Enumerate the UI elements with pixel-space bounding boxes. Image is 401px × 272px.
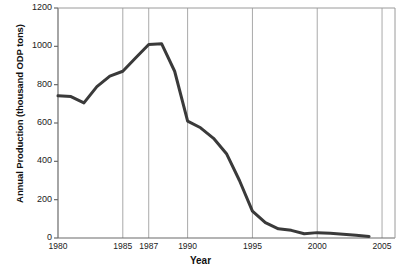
chart-container: Annual Production (thousand ODP tons) Ye… (0, 0, 401, 272)
x-tick-label-2000: 2000 (297, 241, 337, 251)
x-tick-label-1995: 1995 (232, 241, 272, 251)
x-tick-label-2005: 2005 (362, 241, 401, 251)
y-tick-label-800: 800 (18, 79, 52, 89)
production-line-series (58, 44, 369, 237)
y-tick-label-600: 600 (18, 117, 52, 127)
axis-lines-group (58, 8, 395, 238)
y-tick-label-1200: 1200 (18, 2, 52, 12)
x-tick-label-1987: 1987 (129, 241, 169, 251)
y-tick-label-1000: 1000 (18, 40, 52, 50)
x-tick-label-1990: 1990 (168, 241, 208, 251)
y-tick-label-200: 200 (18, 194, 52, 204)
plot-area (0, 0, 401, 272)
x-tick-label-1980: 1980 (38, 241, 78, 251)
y-tick-label-400: 400 (18, 155, 52, 165)
